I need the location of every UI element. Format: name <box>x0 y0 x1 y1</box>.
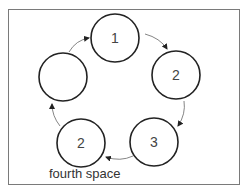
cycle-diagram: 1 2 3 2 fourth space <box>0 0 248 194</box>
node-3-label: 3 <box>150 134 158 150</box>
arrow-n2-to-n3 <box>178 101 184 126</box>
node-2: 2 <box>152 51 200 99</box>
node-4: 2 <box>57 119 105 167</box>
node-1: 1 <box>91 14 139 62</box>
arrow-n5-to-n1 <box>69 38 89 52</box>
node-3: 3 <box>130 118 178 166</box>
node-4-label: 2 <box>77 135 85 151</box>
arrow-n1-to-n2 <box>145 34 167 49</box>
arrow-n4-to-n5 <box>52 104 60 126</box>
node-2-label: 2 <box>172 67 180 83</box>
node-1-label: 1 <box>111 30 119 46</box>
caption-fourth-space: fourth space <box>49 166 121 181</box>
arrow-n3-to-n4 <box>106 156 133 159</box>
node-5-empty <box>39 53 87 101</box>
